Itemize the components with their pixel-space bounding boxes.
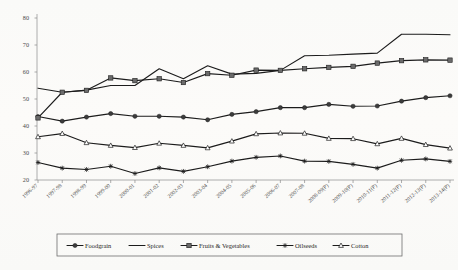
series-foodgrain-marker [254, 110, 258, 114]
series-foodgrain-marker [448, 94, 452, 98]
series-foodgrain-marker [84, 115, 88, 119]
series-oilseeds-marker [205, 164, 209, 169]
x-tick-label: 1999-00 [93, 182, 111, 199]
x-tick-label-group: 2010-11(P) [355, 182, 379, 204]
series-cotton [36, 131, 453, 151]
x-tick-label-group: 2012-13(P) [403, 182, 427, 204]
series-fruits-vegetables-marker [375, 61, 379, 65]
x-tick-label: 2011-12(P) [379, 182, 403, 204]
x-tick-label: 2003-04 [190, 182, 208, 199]
x-tick-label-group: 1998-99 [69, 182, 87, 199]
x-tick-label: 2000-01 [118, 182, 136, 199]
series-foodgrain-marker [109, 111, 113, 115]
series-fruits-vegetables-marker [424, 58, 428, 62]
series-oilseeds-marker [448, 159, 452, 164]
series-fruits-vegetables-marker [205, 71, 209, 75]
x-tick-label-group: 2007-08 [287, 182, 305, 199]
x-tick-label-group: 2011-12(P) [379, 182, 403, 204]
legend-label-oilseeds: Oilseeds [295, 242, 318, 249]
legend-oilseeds-marker [283, 243, 287, 248]
series-fruits-vegetables-marker [327, 65, 331, 69]
series-foodgrain-marker [278, 106, 282, 110]
series-line-foodgrain [38, 96, 450, 121]
series-oilseeds-marker [84, 167, 88, 172]
y-tick-label: 70 [23, 41, 29, 48]
series-foodgrain-marker [327, 102, 331, 106]
x-tick-label: 1998-99 [69, 182, 87, 199]
y-tick-label: 40 [23, 122, 29, 129]
x-tick-label-group: 2005-06 [239, 182, 257, 199]
legend-item-oilseeds[interactable]: Oilseeds [277, 242, 318, 249]
series-fruits-vegetables-marker [448, 58, 452, 62]
series-fruits-vegetables-marker [60, 90, 64, 94]
legend-foodgrain-marker [73, 243, 77, 247]
x-tick-label: 2002-03 [166, 182, 184, 199]
series-fruits-vegetables-marker [278, 68, 282, 72]
x-tick-label-group: 2004-05 [215, 182, 233, 199]
series-fruits-vegetables-marker [302, 67, 306, 71]
x-tick-label: 2007-08 [287, 182, 305, 199]
x-tick-label: 2006-07 [263, 182, 281, 199]
series-foodgrain-marker [230, 112, 234, 116]
series-oilseeds-marker [254, 155, 258, 160]
series-fruits-vegetables-marker [181, 80, 185, 84]
series-oilseeds-marker [230, 159, 234, 164]
series-oilseeds [36, 154, 452, 176]
legend-label-fruits-vegetables: Fruits & Vegetables [199, 242, 250, 249]
series-foodgrain-marker [302, 106, 306, 110]
series-oilseeds-marker [60, 166, 64, 171]
x-tick-label-group: 2001-02 [142, 182, 160, 199]
x-tick-label-group: 1999-00 [93, 182, 111, 199]
series-foodgrain-marker [181, 115, 185, 119]
series-line-fruits-vegetables [38, 60, 450, 118]
x-tick-label-group: 1997-98 [45, 182, 63, 199]
legend-label-cotton: Cotton [351, 242, 369, 249]
x-tick-label-group: 2013-14(P) [428, 182, 452, 204]
x-tick-label-group: 2009-10(P) [331, 182, 355, 204]
series-oilseeds-marker [133, 171, 137, 176]
series-foodgrain [36, 94, 452, 124]
x-tick-label: 2009-10(P) [331, 182, 355, 204]
legend: FoodgrainSpicesFruits & VegetablesOilsee… [57, 234, 402, 256]
series-foodgrain-marker [424, 96, 428, 100]
legend-item-fruits-vegetables[interactable]: Fruits & Vegetables [181, 242, 250, 249]
x-tick-label-group: 2008-09(P) [307, 182, 331, 204]
x-tick-label: 2001-02 [142, 182, 160, 199]
series-oilseeds-marker [327, 159, 331, 164]
legend-fruits-vegetables-marker [187, 243, 191, 247]
series-cotton-marker [399, 136, 404, 140]
series-oilseeds-marker [109, 164, 113, 169]
y-tick-label: 60 [23, 68, 29, 75]
y-tick-label: 50 [23, 95, 29, 102]
series-fruits-vegetables-marker [84, 88, 88, 92]
legend-item-cotton[interactable]: Cotton [333, 242, 369, 249]
series-oilseeds-marker [36, 160, 40, 165]
legend-label-foodgrain: Foodgrain [85, 242, 112, 249]
series-foodgrain-marker [157, 114, 161, 118]
legend-item-foodgrain[interactable]: Foodgrain [67, 242, 112, 249]
series-foodgrain-marker [133, 114, 137, 118]
chart-figure: 203040506070801996-971997-981998-991999-… [0, 0, 458, 270]
series-oilseeds-marker [181, 169, 185, 174]
series-foodgrain-marker [375, 104, 379, 108]
series-oilseeds-marker [351, 162, 355, 167]
legend-label-spices: Spices [147, 242, 164, 249]
x-tick-label: 1996-97 [21, 182, 39, 199]
series-foodgrain-marker [399, 99, 403, 103]
series-oilseeds-marker [424, 157, 428, 162]
x-tick-label: 2010-11(P) [355, 182, 379, 204]
series-fruits-vegetables-marker [36, 116, 40, 120]
x-tick-label-group: 2003-04 [190, 182, 208, 199]
series-fruits-vegetables-marker [351, 64, 355, 68]
y-tick-label: 30 [23, 149, 29, 156]
x-tick-label: 2013-14(P) [428, 182, 452, 204]
series-fruits-vegetables-marker [254, 68, 258, 72]
line-chart: 203040506070801996-971997-981998-991999-… [0, 0, 458, 270]
series-fruits-vegetables-marker [109, 76, 113, 80]
series-oilseeds-marker [157, 165, 161, 170]
x-tick-label-group: 1996-97 [21, 182, 39, 199]
series-oilseeds-marker [375, 166, 379, 171]
series-oilseeds-marker [278, 154, 282, 159]
legend-item-spices[interactable]: Spices [129, 242, 164, 249]
series-foodgrain-marker [206, 118, 210, 122]
